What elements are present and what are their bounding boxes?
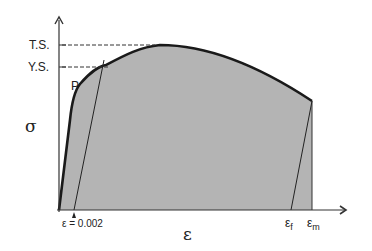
max-strain-label: εm	[307, 217, 320, 232]
ys-label: Y.S.	[28, 61, 49, 73]
fracture-strain-subscript: f	[290, 222, 293, 232]
max-strain-subscript: m	[312, 222, 320, 232]
ts-label: T.S.	[29, 39, 50, 51]
strain-axis-label: ε	[183, 226, 192, 243]
stress-strain-diagram	[0, 0, 372, 251]
stress-axis-label: σ	[25, 118, 37, 135]
fracture-strain-label: εf	[285, 217, 293, 232]
proportional-limit-label: P	[71, 80, 79, 92]
offset-strain-label: ε = 0.002	[62, 219, 103, 229]
